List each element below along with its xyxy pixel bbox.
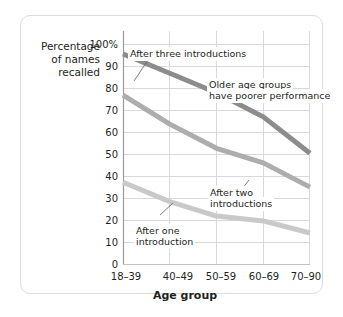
annotation-after-three-introductions: After three introductions — [128, 47, 248, 61]
annotation-after-two-line-2: introductions — [208, 197, 274, 211]
annotation-older-age-groups-line-2: have poorer performance — [207, 89, 332, 103]
annotation-after-one-line-2: introduction — [134, 235, 195, 249]
